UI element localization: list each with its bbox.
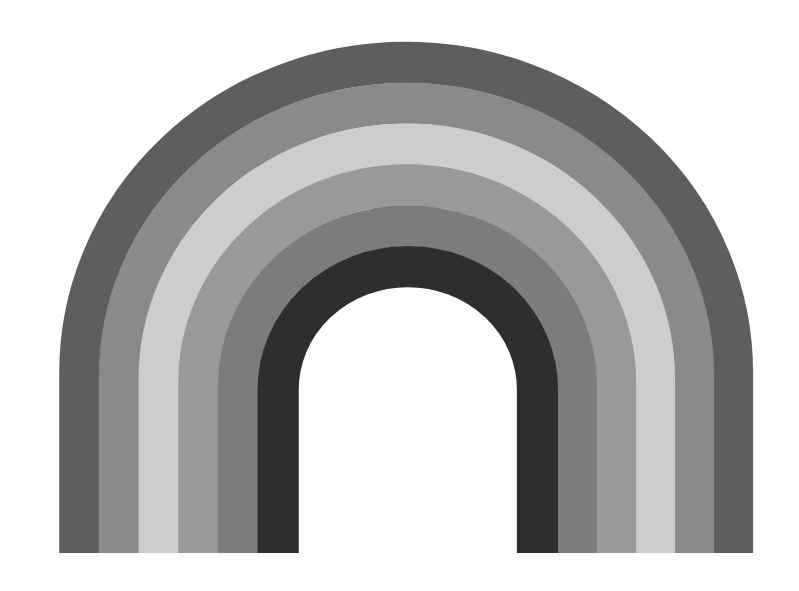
rainbow-arch-painting [0,0,799,591]
band-inner [278,267,537,553]
